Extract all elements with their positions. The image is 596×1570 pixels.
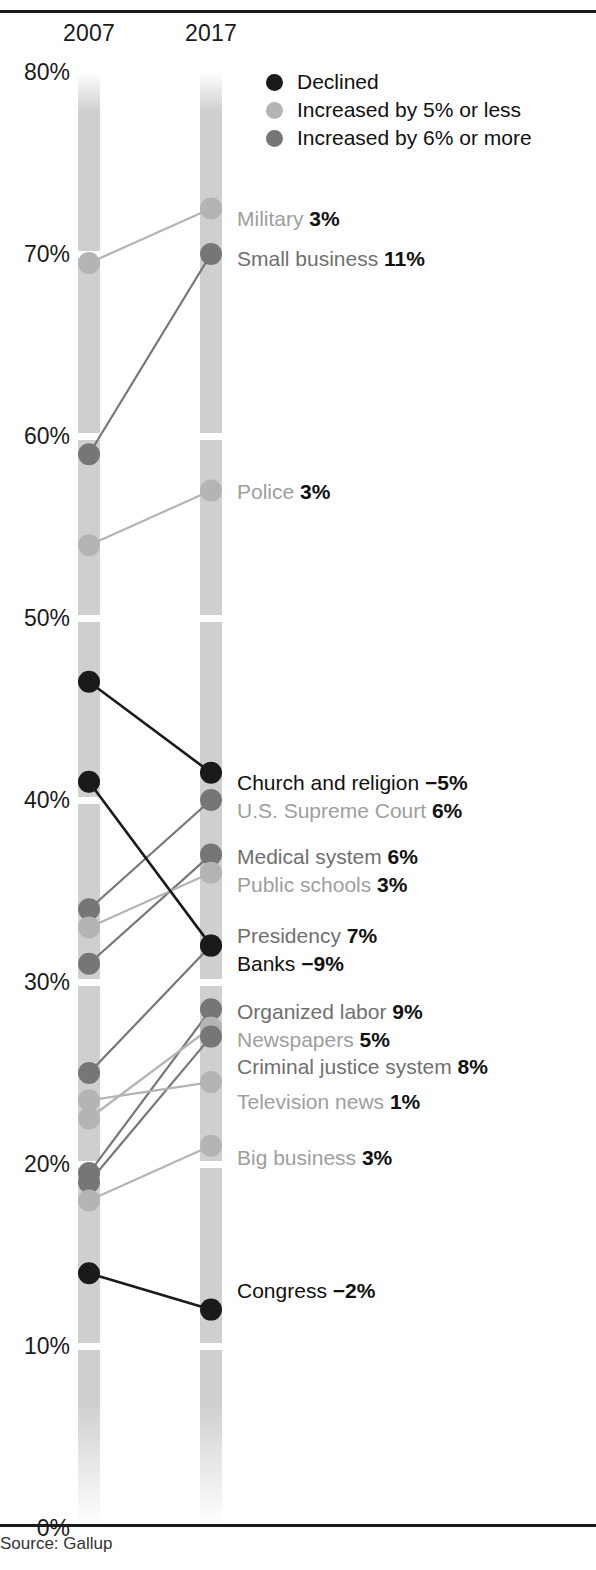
point-label-small-business: Small business 11%: [237, 248, 425, 269]
slope-line-newspapers: [89, 1028, 211, 1119]
point-label-value: 7%: [347, 924, 377, 947]
legend-item-1: Increased by 5% or less: [266, 96, 532, 124]
point-label-value: 5%: [360, 1028, 390, 1051]
slope-chart: 2007 2017 80%70%60%50%40%30%20%10%0% Dec…: [0, 0, 596, 1570]
point-label-value: 6%: [432, 799, 462, 822]
legend: DeclinedIncreased by 5% or lessIncreased…: [266, 68, 532, 152]
point-label-television-news: Television news 1%: [237, 1091, 420, 1112]
slope-line-military: [89, 209, 211, 264]
point-label-banks: Banks −9%: [237, 953, 344, 974]
data-point-small-business-2007[interactable]: [78, 443, 100, 465]
point-label-organized-labor: Organized labor 9%: [237, 1001, 423, 1022]
point-label-value: −5%: [425, 771, 468, 794]
data-point-congress-2017[interactable]: [200, 1299, 222, 1321]
point-label-value: 6%: [388, 845, 418, 868]
point-label-value: 3%: [377, 873, 407, 896]
point-label-police: Police 3%: [237, 481, 330, 502]
slope-line-police: [89, 491, 211, 546]
point-label-presidency: Presidency 7%: [237, 925, 377, 946]
point-label-name: Medical system: [237, 845, 382, 868]
point-label-public-schools: Public schools 3%: [237, 874, 407, 895]
point-label-value: 11%: [384, 247, 425, 270]
point-label-name: Banks: [237, 952, 295, 975]
point-label-name: U.S. Supreme Court: [237, 799, 426, 822]
point-label-value: −9%: [301, 952, 344, 975]
point-label-value: 3%: [309, 207, 339, 230]
data-point-congress-2007[interactable]: [78, 1262, 100, 1284]
data-point-public-schools-2017[interactable]: [200, 862, 222, 884]
slope-line-television-news: [89, 1082, 211, 1100]
point-label-congress: Congress −2%: [237, 1280, 375, 1301]
point-label-name: Big business: [237, 1146, 356, 1169]
bottom-rule: [0, 1524, 596, 1527]
data-point-police-2017[interactable]: [200, 480, 222, 502]
point-label-name: Public schools: [237, 873, 371, 896]
point-label-newspapers: Newspapers 5%: [237, 1029, 390, 1050]
data-point-banks-2007[interactable]: [78, 771, 100, 793]
data-point-church-and-religion-2007[interactable]: [78, 671, 100, 693]
data-point-banks-2017[interactable]: [200, 935, 222, 957]
slope-line-medical-system: [89, 855, 211, 964]
data-point-television-news-2017[interactable]: [200, 1071, 222, 1093]
slope-line-u-s-supreme-court: [89, 800, 211, 909]
point-label-church-and-religion: Church and religion −5%: [237, 772, 468, 793]
point-label-value: 1%: [390, 1090, 420, 1113]
legend-item-2: Increased by 6% or more: [266, 124, 532, 152]
slope-line-banks: [89, 782, 211, 946]
data-point-presidency-2007[interactable]: [78, 1062, 100, 1084]
data-point-church-and-religion-2017[interactable]: [200, 762, 222, 784]
slope-line-presidency: [89, 946, 211, 1073]
legend-item-0: Declined: [266, 68, 532, 96]
connector-lines: [89, 209, 211, 1310]
data-points: [78, 198, 222, 1321]
point-label-criminal-justice-system: Criminal justice system 8%: [237, 1056, 488, 1077]
data-point-u-s-supreme-court-2017[interactable]: [200, 789, 222, 811]
point-label-name: Organized labor: [237, 1000, 386, 1023]
point-label-value: 3%: [362, 1146, 392, 1169]
legend-dot-icon-2: [266, 130, 283, 147]
data-point-public-schools-2007[interactable]: [78, 916, 100, 938]
legend-dot-icon-1: [266, 102, 283, 119]
point-label-name: Police: [237, 480, 294, 503]
point-label-name: Congress: [237, 1279, 327, 1302]
legend-label-2: Increased by 6% or more: [297, 126, 532, 150]
point-label-name: Television news: [237, 1090, 384, 1113]
point-label-name: Presidency: [237, 924, 341, 947]
point-label-value: 9%: [392, 1000, 422, 1023]
point-label-medical-system: Medical system 6%: [237, 846, 418, 867]
point-label-big-business: Big business 3%: [237, 1147, 392, 1168]
data-point-military-2017[interactable]: [200, 198, 222, 220]
point-label-u-s-supreme-court: U.S. Supreme Court 6%: [237, 800, 462, 821]
data-point-big-business-2007[interactable]: [78, 1189, 100, 1211]
point-label-name: Criminal justice system: [237, 1055, 452, 1078]
data-point-medical-system-2007[interactable]: [78, 953, 100, 975]
point-label-name: Newspapers: [237, 1028, 354, 1051]
slope-line-big-business: [89, 1146, 211, 1201]
data-point-police-2007[interactable]: [78, 534, 100, 556]
slope-line-congress: [89, 1273, 211, 1309]
legend-label-1: Increased by 5% or less: [297, 98, 521, 122]
legend-label-0: Declined: [297, 70, 379, 94]
source-note: Source: Gallup: [0, 1534, 112, 1554]
legend-dot-icon-0: [266, 74, 283, 91]
point-label-value: 8%: [458, 1055, 488, 1078]
data-point-military-2007[interactable]: [78, 252, 100, 274]
data-point-criminal-justice-system-2017[interactable]: [200, 1026, 222, 1048]
point-label-name: Military: [237, 207, 304, 230]
data-point-big-business-2017[interactable]: [200, 1135, 222, 1157]
slope-line-criminal-justice-system: [89, 1037, 211, 1183]
point-label-name: Church and religion: [237, 771, 419, 794]
point-label-name: Small business: [237, 247, 378, 270]
point-label-military: Military 3%: [237, 208, 340, 229]
slope-line-church-and-religion: [89, 682, 211, 773]
point-label-value: −2%: [333, 1279, 376, 1302]
data-point-television-news-2007[interactable]: [78, 1089, 100, 1111]
slope-line-small-business: [89, 254, 211, 454]
point-label-value: 3%: [300, 480, 330, 503]
data-point-small-business-2017[interactable]: [200, 243, 222, 265]
